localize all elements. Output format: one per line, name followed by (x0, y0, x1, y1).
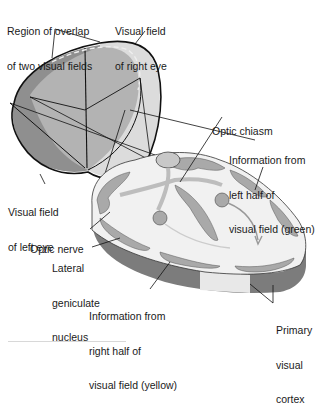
lateral-geniculate-nucleus-right (215, 193, 229, 207)
label-primary-visual-cortex: Primary visual cortex (276, 302, 312, 407)
label-overlap-region: Region of overlap of two visual fields (7, 3, 92, 84)
optic-chiasm-structure (156, 152, 180, 168)
label-right-half-info: Information from right half of visual fi… (89, 288, 177, 403)
footer-divider (8, 341, 126, 342)
lateral-geniculate-nucleus-left (153, 211, 167, 225)
label-left-half-info: Information from left half of visual fie… (229, 132, 315, 247)
label-right-eye-field: Visual field of right eye (115, 3, 167, 84)
